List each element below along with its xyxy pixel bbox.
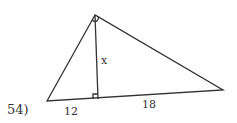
left-segment-label: 12	[64, 106, 78, 117]
geometry-figure: 54) x 12 18	[0, 0, 237, 123]
right-triangle	[47, 15, 223, 101]
altitude-label: x	[101, 55, 107, 66]
problem-number: 54)	[7, 103, 29, 116]
right-segment-label: 18	[142, 99, 156, 110]
triangle-diagram	[0, 0, 237, 123]
altitude-line	[95, 15, 98, 99]
